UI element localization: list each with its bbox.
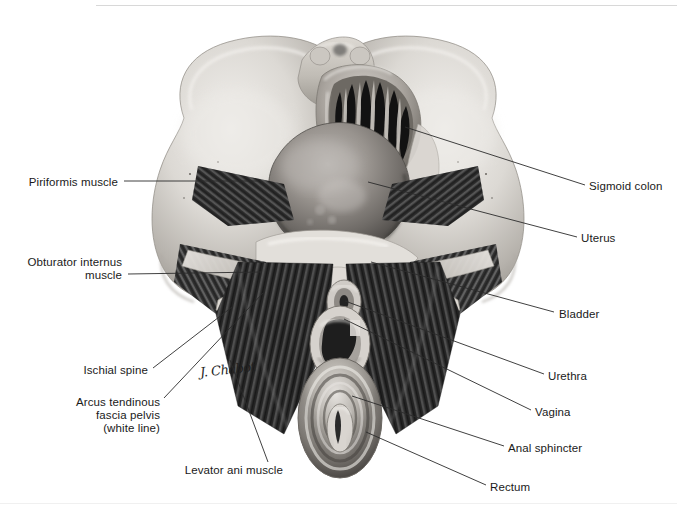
pelvis-illustration xyxy=(88,14,588,494)
label-obturator-internus-muscle: Obturator internus muscle xyxy=(0,256,122,282)
label-sigmoid-colon: Sigmoid colon xyxy=(589,180,663,193)
bottom-caption xyxy=(48,495,348,504)
label-anal-sphincter: Anal sphincter xyxy=(508,442,582,455)
label-uterus: Uterus xyxy=(581,232,615,245)
label-rectum: Rectum xyxy=(490,481,530,494)
label-vagina: Vagina xyxy=(535,406,571,419)
label-urethra: Urethra xyxy=(548,370,587,383)
label-ischial-spine: Ischial spine xyxy=(0,364,148,377)
label-arcus-tendinous-fascia-pelvis: Arcus tendinous fascia pelvis (white lin… xyxy=(0,396,160,435)
label-piriformis-muscle: Piriformis muscle xyxy=(0,176,118,189)
rectum xyxy=(327,404,353,452)
label-bladder: Bladder xyxy=(559,308,599,321)
label-levator-ani-muscle: Levator ani muscle xyxy=(0,464,283,477)
scan-edge-line xyxy=(96,5,677,6)
figure-page: J. Chabot Piriformis muscleObturator int… xyxy=(0,0,677,505)
